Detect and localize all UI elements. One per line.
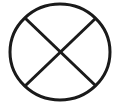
crossed-circle-icon: [0, 0, 115, 104]
crossed-circle-symbol: [0, 0, 115, 104]
